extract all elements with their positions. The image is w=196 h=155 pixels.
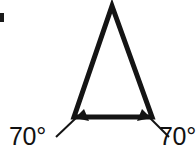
triangle-figure: 70° 70° bbox=[0, 0, 196, 155]
figure-canvas: 70° 70° bbox=[0, 0, 196, 155]
angle-label-right: 70° bbox=[159, 122, 196, 150]
angle-label-left: 70° bbox=[9, 122, 46, 150]
page-edge-artifact bbox=[0, 13, 4, 22]
